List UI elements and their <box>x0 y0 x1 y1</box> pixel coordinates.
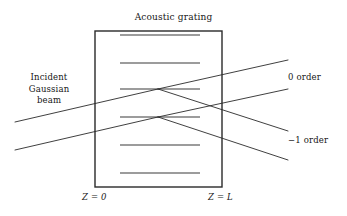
orderm1-upper-ray <box>158 89 288 131</box>
incident-beam-label-line1: Incident <box>31 72 68 82</box>
grating-box-group <box>95 31 222 187</box>
order-minus-one-rays-group <box>158 89 288 160</box>
figure-canvas <box>0 0 347 216</box>
incident-beam-label: IncidentGaussianbeam <box>10 72 88 107</box>
grating-lines-group <box>120 35 200 173</box>
order0-lower-ray <box>158 89 288 117</box>
order0-upper-ray <box>158 60 288 89</box>
figure-title: Acoustic grating <box>0 12 347 23</box>
order-zero-label: 0 order <box>288 72 321 83</box>
order-minus-one-label: −1 order <box>288 135 328 146</box>
grating-region-box <box>95 31 222 187</box>
z-start-label: Z = 0 <box>82 192 107 203</box>
acoustic-grating-figure: Acoustic grating IncidentGaussianbeam 0 … <box>0 0 347 216</box>
orderm1-lower-ray <box>158 117 288 160</box>
incident-beam-label-line2: Gaussian <box>29 84 70 94</box>
incident-beam-label-line3: beam <box>37 95 61 105</box>
z-end-label: Z = L <box>208 192 233 203</box>
